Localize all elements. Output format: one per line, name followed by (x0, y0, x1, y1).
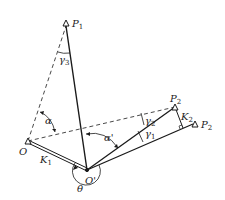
kinematic-diagram: P1 P2 P2 O O' K1 K2 γ3 α α' γ2 γ1 θ (0, 0, 225, 200)
pivot-Oprime-icon (85, 168, 88, 171)
triangle-P1-icon (63, 20, 69, 26)
arrow-alpha-top (40, 111, 44, 115)
label-O-prime: O' (85, 175, 96, 186)
link-K1-outer (28, 140, 87, 168)
label-P2-lower: P2 (200, 119, 212, 132)
link-K1-inner (28, 143, 87, 171)
label-O: O (19, 146, 27, 157)
line-Oprime-P2-upper (87, 107, 175, 170)
labels: P1 P2 P2 O O' K1 K2 γ3 α α' γ2 γ1 θ (19, 18, 212, 194)
line-Oprime-P2-lower (87, 124, 193, 170)
arrow-alpha-prime (86, 132, 90, 136)
label-K2: K2 (180, 111, 193, 124)
label-K1: K1 (39, 154, 52, 167)
arrow-alpha-bottom (52, 129, 56, 132)
label-theta: θ (77, 183, 83, 194)
arc-gamma1 (138, 131, 143, 142)
arc-gamma2 (141, 113, 144, 125)
line-Oprime-P1 (66, 26, 87, 170)
label-P1: P1 (71, 18, 83, 31)
label-alpha-prime: α' (104, 132, 114, 143)
label-gamma3: γ3 (59, 54, 69, 67)
angle-arcs (40, 52, 144, 185)
label-gamma1: γ1 (145, 128, 155, 141)
label-alpha: α (45, 115, 52, 126)
label-gamma2: γ2 (145, 115, 155, 128)
solid-lines (28, 26, 193, 171)
